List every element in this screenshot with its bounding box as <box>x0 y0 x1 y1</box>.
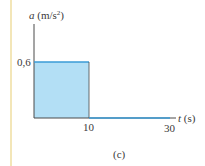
x-axis-label: t (s) <box>178 113 195 124</box>
area-fill <box>34 62 89 118</box>
x-tick-10: 10 <box>83 122 94 133</box>
y-axis-label: a (m/s2) <box>29 10 64 21</box>
figure-caption: (c) <box>113 149 125 160</box>
acceleration-time-plot <box>0 0 205 166</box>
x-axis-unit: (s) <box>184 112 196 124</box>
x-axis-var: t <box>178 112 181 124</box>
y-axis-unit-close: ) <box>60 9 64 21</box>
y-axis-var: a <box>29 9 35 21</box>
y-tick-0-6: 0,6 <box>17 57 31 68</box>
x-tick-30: 30 <box>164 123 175 134</box>
y-axis-unit: (m/s <box>37 9 57 21</box>
